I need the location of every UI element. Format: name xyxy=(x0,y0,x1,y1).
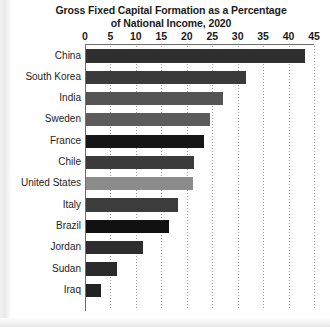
bar xyxy=(86,241,143,254)
x-tick-label-30: 30 xyxy=(232,30,244,42)
bar-row: China xyxy=(0,46,330,67)
bar xyxy=(86,92,223,105)
category-label: Jordan xyxy=(50,241,81,252)
category-label: South Korea xyxy=(25,71,81,82)
category-label: Brazil xyxy=(56,220,81,231)
bar xyxy=(86,177,193,190)
x-tick-label-5: 5 xyxy=(108,30,114,42)
bar-row: Italy xyxy=(0,195,330,216)
x-tick-label-25: 25 xyxy=(206,30,218,42)
bar xyxy=(86,49,305,62)
category-label: Sudan xyxy=(52,263,81,274)
bar-row: South Korea xyxy=(0,67,330,88)
category-label: Iraq xyxy=(64,284,81,295)
bar-row: Iraq xyxy=(0,280,330,301)
bar-row: United States xyxy=(0,174,330,195)
x-axis-tick-labels: 051015202530354045 xyxy=(0,30,330,44)
x-tick-label-15: 15 xyxy=(155,30,167,42)
bar-rows: ChinaSouth KoreaIndiaSwedenFranceChileUn… xyxy=(0,46,330,302)
bar xyxy=(86,156,194,169)
bar-row: Chile xyxy=(0,152,330,173)
bar xyxy=(86,198,178,211)
x-tick-label-35: 35 xyxy=(257,30,269,42)
category-label: Chile xyxy=(58,156,81,167)
bar xyxy=(86,113,210,126)
page-edge-shading-bottom xyxy=(0,318,330,327)
x-tick-label-45: 45 xyxy=(308,30,320,42)
category-label: France xyxy=(50,135,81,146)
x-tick-label-0: 0 xyxy=(82,30,88,42)
bar xyxy=(86,71,246,84)
chart-page: Gross Fixed Capital Formation as a Perce… xyxy=(0,0,330,327)
x-axis-top-rule xyxy=(85,44,314,45)
bar xyxy=(86,284,101,297)
bar-row: Sudan xyxy=(0,259,330,280)
bar xyxy=(86,135,204,148)
bar-row: Sweden xyxy=(0,110,330,131)
bar-row: France xyxy=(0,131,330,152)
plot-area: 051015202530354045 ChinaSouth KoreaIndia… xyxy=(0,0,330,327)
category-label: India xyxy=(59,92,81,103)
x-tick-label-10: 10 xyxy=(130,30,142,42)
category-label: United States xyxy=(21,177,81,188)
x-tick-label-20: 20 xyxy=(181,30,193,42)
bar xyxy=(86,220,169,233)
category-label: Sweden xyxy=(45,113,81,124)
x-tick-label-40: 40 xyxy=(283,30,295,42)
bar-row: Brazil xyxy=(0,216,330,237)
bar xyxy=(86,262,117,275)
bar-row: Jordan xyxy=(0,238,330,259)
category-label: Italy xyxy=(63,199,81,210)
bar-row: India xyxy=(0,89,330,110)
category-label: China xyxy=(55,50,81,61)
